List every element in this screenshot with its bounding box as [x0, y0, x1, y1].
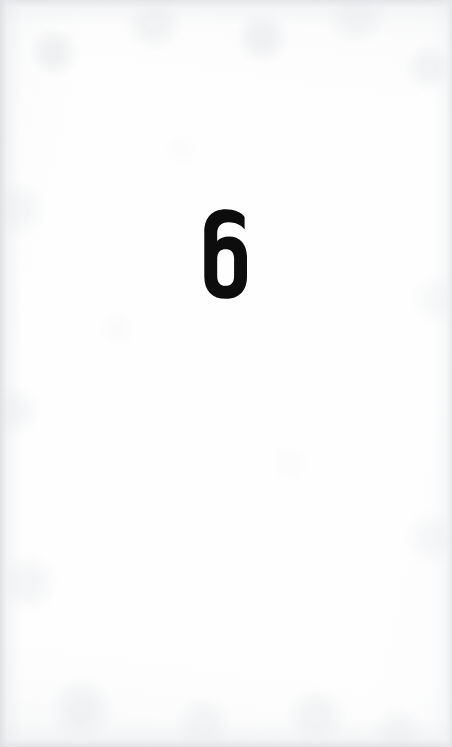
chapter-number-glyph-6: 6 [203, 206, 249, 302]
chapter-number: 6 [0, 206, 452, 302]
scanned-page: 6 [0, 0, 452, 747]
paper-grain-texture [0, 0, 452, 747]
